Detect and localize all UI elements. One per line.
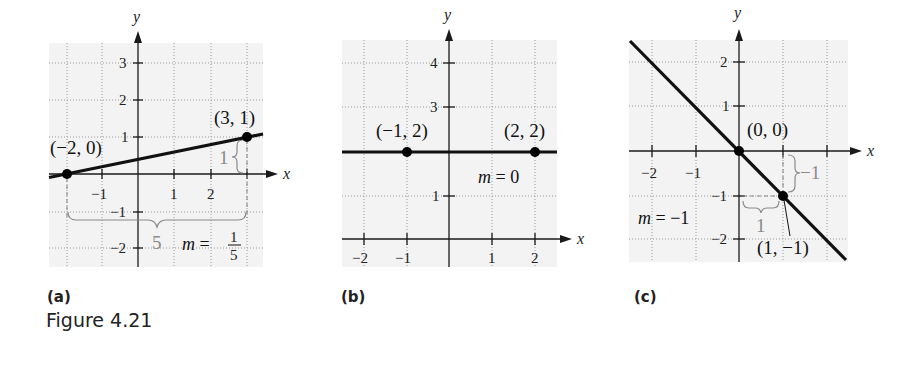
- x-tick-label: −1: [395, 250, 411, 266]
- rise-label: −1: [800, 162, 820, 183]
- x-tick-label: −2: [352, 250, 368, 266]
- x-tick-label: −1: [685, 165, 701, 181]
- slope-label: m = −1: [638, 208, 689, 228]
- figure-title: Figure 4.21: [46, 309, 152, 331]
- point-3-1: [242, 132, 252, 142]
- y-axis-arrow-icon: [445, 29, 453, 41]
- x-tick-label: 2: [531, 250, 539, 266]
- point-label: (2, 2): [504, 120, 545, 142]
- y-axis-arrow-icon: [134, 31, 142, 43]
- y-axis-label: y: [131, 8, 141, 26]
- y-tick-label: −2: [110, 240, 126, 256]
- point-0-0: [734, 146, 744, 156]
- slope-denominator: 5: [230, 247, 238, 263]
- caption-b: (b): [341, 288, 365, 306]
- y-tick-label: −1: [711, 188, 727, 204]
- point-neg1-2: [402, 147, 412, 157]
- x-axis-label: x: [282, 165, 290, 182]
- y-tick-label: −1: [110, 204, 126, 220]
- graph-a: x y −1 1 2 3 2 1 −1 −2 5 1: [49, 8, 290, 267]
- point-label: (0, 0): [747, 119, 788, 141]
- caption-c: (c): [634, 288, 657, 306]
- y-tick-label: 1: [432, 188, 440, 204]
- point-label: (−2, 0): [50, 137, 102, 159]
- run-label: 5: [152, 232, 162, 253]
- y-axis-label: y: [442, 6, 452, 24]
- point-label: (3, 1): [214, 107, 255, 129]
- x-tick-label: 2: [207, 186, 215, 202]
- point-label: (−1, 2): [376, 120, 428, 142]
- x-axis-arrow-icon: [266, 170, 278, 178]
- x-tick-label: −2: [641, 165, 657, 181]
- x-tick-label: −1: [91, 186, 107, 202]
- point-1-neg1: [778, 191, 788, 201]
- point-2-2: [530, 147, 540, 157]
- y-tick-label: 2: [119, 92, 127, 108]
- slope-label: m = 0: [478, 167, 519, 187]
- x-axis-label: x: [866, 142, 874, 159]
- point-label: (1, −1): [757, 237, 809, 259]
- y-tick-label: 3: [430, 99, 438, 115]
- y-tick-label: 3: [119, 55, 127, 71]
- y-axis-arrow-icon: [735, 29, 743, 41]
- x-axis-arrow-icon: [850, 147, 862, 155]
- y-axis-label: y: [732, 4, 742, 22]
- caption-a: (a): [47, 288, 71, 306]
- y-tick-label: 4: [430, 55, 438, 71]
- x-axis-label: x: [576, 230, 584, 247]
- y-tick-label: 1: [722, 98, 730, 114]
- graph-c: x y −2 −1 2 1 −1 −2 −1 1 (0, 0): [629, 4, 874, 262]
- slope-numerator: 1: [230, 229, 238, 245]
- graph-b: x y −2 −1 1 2 4 3 1 (−1, 2) (2, 2) m = 0: [342, 6, 584, 267]
- x-axis-arrow-icon: [560, 235, 572, 243]
- y-tick-label: 1: [121, 129, 129, 145]
- point-neg2-0: [62, 169, 72, 179]
- y-tick-label: 2: [720, 54, 728, 70]
- x-tick-label: 1: [488, 250, 496, 266]
- rise-label: 1: [219, 147, 229, 168]
- slope-label: m =: [182, 234, 210, 254]
- y-tick-label: −2: [711, 231, 727, 247]
- run-label: 1: [756, 215, 766, 236]
- x-tick-label: 1: [170, 186, 178, 202]
